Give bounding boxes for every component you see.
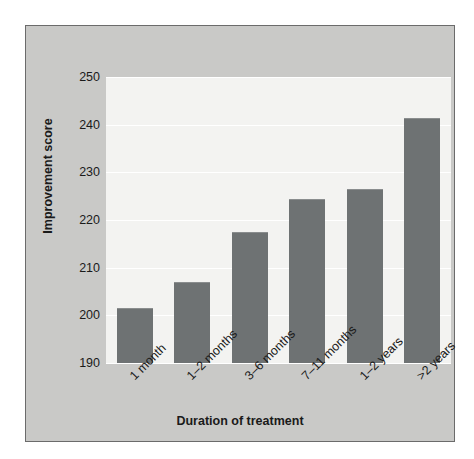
bar <box>232 232 268 363</box>
bar <box>404 118 440 363</box>
plot-area <box>106 77 451 363</box>
y-tick-label: 250 <box>56 70 100 84</box>
bar-series <box>106 77 451 363</box>
y-axis-tick-labels: 190200210220230240250 <box>50 77 100 363</box>
y-tick-label: 200 <box>56 308 100 322</box>
y-tick-label: 240 <box>56 118 100 132</box>
y-tick-label: 220 <box>56 213 100 227</box>
x-axis-title: Duration of treatment <box>26 414 454 428</box>
y-tick-label: 210 <box>56 261 100 275</box>
y-tick-label: 230 <box>56 165 100 179</box>
y-tick-label: 190 <box>56 356 100 370</box>
chart-figure: Improvement score 190200210220230240250 … <box>25 25 455 442</box>
